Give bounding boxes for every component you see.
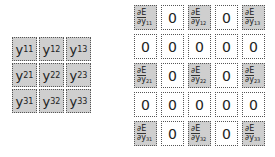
zero-cell: 0 — [215, 34, 238, 59]
gradient-cell-21: ∂E∂y21 — [134, 63, 157, 88]
y-cell-31: y31 — [12, 89, 37, 113]
gradient-cell-32: ∂E∂y32 — [188, 121, 211, 146]
zero-cell: 0 — [161, 92, 184, 117]
zero-cell: 0 — [242, 92, 265, 117]
y-cell-32: y32 — [39, 89, 64, 113]
y-cell-12: y12 — [39, 37, 64, 61]
gradient-cell-13: ∂E∂y13 — [242, 5, 265, 30]
zero-cell: 0 — [161, 121, 184, 146]
gradient-cell-23: ∂E∂y23 — [242, 63, 265, 88]
zero-cell: 0 — [215, 92, 238, 117]
gradient-cell-11: ∂E∂y11 — [134, 5, 157, 30]
zero-cell: 0 — [215, 121, 238, 146]
y-cell-21: y21 — [12, 63, 37, 87]
y-cell-11: y11 — [12, 37, 37, 61]
zero-cell: 0 — [134, 34, 157, 59]
gradient-cell-12: ∂E∂y12 — [188, 5, 211, 30]
zero-cell: 0 — [161, 63, 184, 88]
y-cell-23: y23 — [66, 63, 91, 87]
zero-cell: 0 — [215, 5, 238, 30]
y-cell-33: y33 — [66, 89, 91, 113]
zero-cell: 0 — [215, 63, 238, 88]
gradient-cell-33: ∂E∂y33 — [242, 121, 265, 146]
y-matrix: y11y12y13y21y22y23y31y32y33 — [12, 37, 91, 113]
y-cell-22: y22 — [39, 63, 64, 87]
gradient-cell-22: ∂E∂y22 — [188, 63, 211, 88]
gradient-cell-31: ∂E∂y31 — [134, 121, 157, 146]
zero-cell: 0 — [161, 34, 184, 59]
zero-cell: 0 — [242, 34, 265, 59]
y-cell-13: y13 — [66, 37, 91, 61]
zero-cell: 0 — [188, 92, 211, 117]
zero-cell: 0 — [188, 34, 211, 59]
zero-cell: 0 — [161, 5, 184, 30]
zero-cell: 0 — [134, 92, 157, 117]
gradient-matrix: ∂E∂y110∂E∂y120∂E∂y1300000∂E∂y210∂E∂y220∂… — [134, 5, 265, 146]
